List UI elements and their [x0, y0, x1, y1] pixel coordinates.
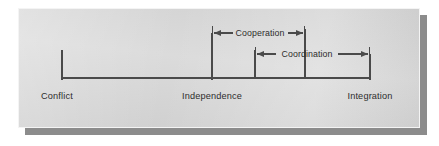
cooperation-left-arrowhead [214, 30, 221, 36]
scale-label-independence: Independence [182, 91, 242, 101]
coordination-left-arrowhead [257, 51, 264, 57]
continuum-diagram: Cooperation Coordination Conflict Indepe… [0, 0, 439, 146]
cooperation-span-arrow: Cooperation [213, 26, 305, 40]
coordination-label: Coordination [281, 49, 332, 59]
scale-label-integration: Integration [347, 91, 392, 101]
scale-label-conflict: Conflict [41, 91, 73, 101]
cooperation-right-arrowhead [296, 30, 303, 36]
figure-root: Cooperation Coordination Conflict Indepe… [0, 0, 439, 146]
coordination-span-arrow: Coordination [256, 47, 370, 61]
coordination-right-arrowhead [361, 51, 368, 57]
cooperation-label: Cooperation [235, 28, 284, 38]
